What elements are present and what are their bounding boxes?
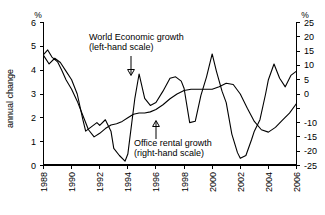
x-tick-2004: 2004 xyxy=(264,172,274,192)
annotation-office-line1: Office rental growth xyxy=(134,138,212,148)
right-tick-minus25: -25 xyxy=(304,161,317,171)
right-tick-25: 25 xyxy=(304,18,314,28)
x-tick-1992: 1992 xyxy=(95,172,105,192)
right-tick-0: 0 xyxy=(304,89,309,99)
y-axis-title: annual change xyxy=(5,69,15,128)
left-tick-6: 6 xyxy=(31,18,36,28)
arrow-up-icon xyxy=(153,121,160,140)
x-tick-1994: 1994 xyxy=(123,172,133,192)
x-axis-tick-labels: 1988 1990 1992 1994 1996 1998 2000 2002 … xyxy=(39,172,302,192)
chart-container: % % 0 1 2 3 4 5 6 -25 -20 -15 -10 0 5 10… xyxy=(0,0,325,215)
x-tick-2000: 2000 xyxy=(208,172,218,192)
series-world-economic-growth xyxy=(44,50,297,137)
left-tick-2: 2 xyxy=(31,113,36,123)
left-tick-4: 4 xyxy=(31,65,36,75)
x-tick-2002: 2002 xyxy=(236,172,246,192)
annotation-office-rental-growth: Office rental growth (right-hand scale) xyxy=(134,121,212,159)
left-tick-5: 5 xyxy=(31,41,36,51)
annotation-world-economic-growth: World Economic growth (left-hand scale) xyxy=(89,32,184,76)
right-tick-5: 5 xyxy=(304,75,309,85)
x-tick-1988: 1988 xyxy=(39,172,49,192)
right-tick-15: 15 xyxy=(304,46,314,56)
left-tick-0: 0 xyxy=(31,161,36,171)
right-tick-minus20: -20 xyxy=(304,146,317,156)
right-tick-20: 20 xyxy=(304,32,314,42)
left-axis-tick-labels: 0 1 2 3 4 5 6 xyxy=(31,18,36,171)
annotation-office-line2: (right-hand scale) xyxy=(134,148,204,158)
annotation-world-line2: (left-hand scale) xyxy=(89,42,154,52)
x-tick-1996: 1996 xyxy=(151,172,161,192)
right-tick-minus15: -15 xyxy=(304,132,317,142)
line-chart: % % 0 1 2 3 4 5 6 -25 -20 -15 -10 0 5 10… xyxy=(0,0,325,215)
x-tick-2006: 2006 xyxy=(292,172,302,192)
x-tick-1990: 1990 xyxy=(67,172,77,192)
arrow-down-icon xyxy=(128,56,135,76)
x-tick-1998: 1998 xyxy=(180,172,190,192)
right-tick-minus10: -10 xyxy=(304,118,317,128)
left-tick-1: 1 xyxy=(31,137,36,147)
right-tick-10: 10 xyxy=(304,60,314,70)
right-axis-tick-labels: -25 -20 -15 -10 0 5 10 15 20 25 xyxy=(304,18,317,171)
left-tick-3: 3 xyxy=(31,89,36,99)
annotation-world-line1: World Economic growth xyxy=(89,32,184,42)
